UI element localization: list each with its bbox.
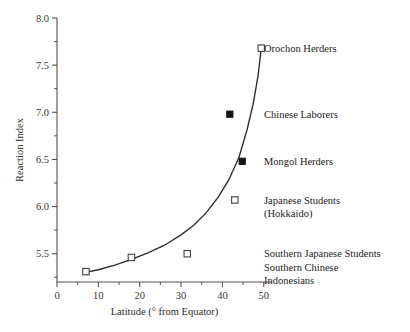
annotation-japanese-students: (Hokkaido) [264, 208, 313, 220]
scatter-plot-canvas: 5.56.06.57.07.58.001020304050Latitude (°… [0, 0, 410, 332]
y-axis-title: Reaction Index [14, 117, 25, 182]
annotation-chinese-laborers: Chinese Laborers [264, 109, 338, 120]
axis-frame [57, 18, 272, 282]
annotation-mongol-herders: Mongol Herders [264, 156, 333, 167]
data-point-marker [239, 158, 245, 164]
reaction-index-latitude-figure: 5.56.06.57.07.58.001020304050Latitude (°… [0, 0, 410, 332]
x-axis-title: Latitude (° from Equator) [111, 306, 219, 318]
y-axis-tick-label: 6.5 [36, 154, 49, 165]
y-axis-tick-label: 5.5 [36, 248, 49, 259]
y-axis-tick-label: 6.0 [36, 201, 49, 212]
x-axis-tick-label: 50 [258, 290, 269, 301]
y-axis-tick-label: 7.5 [36, 60, 49, 71]
fit-curve [84, 48, 261, 272]
data-point-marker [128, 254, 134, 260]
annotation-southern-groups: Southern Japanese Students [264, 248, 381, 259]
data-point-marker [227, 111, 233, 117]
annotation-japanese-students: Japanese Students [264, 195, 340, 206]
y-axis-tick-label: 7.0 [36, 107, 49, 118]
data-point-marker [232, 197, 238, 203]
annotation-southern-groups: Indonesians [264, 275, 314, 286]
y-axis-tick-label: 8.0 [36, 13, 49, 24]
x-axis-tick-label: 20 [134, 290, 145, 301]
data-point-marker [184, 251, 190, 257]
annotation-southern-groups: Southern Chinese [264, 262, 339, 273]
x-axis-tick-label: 30 [176, 290, 187, 301]
data-point-marker [83, 268, 89, 274]
x-axis-tick-label: 0 [54, 290, 59, 301]
x-axis-tick-label: 10 [93, 290, 104, 301]
annotation-orochon-herders: Orochon Herders [264, 43, 337, 54]
x-axis-tick-label: 40 [217, 290, 228, 301]
